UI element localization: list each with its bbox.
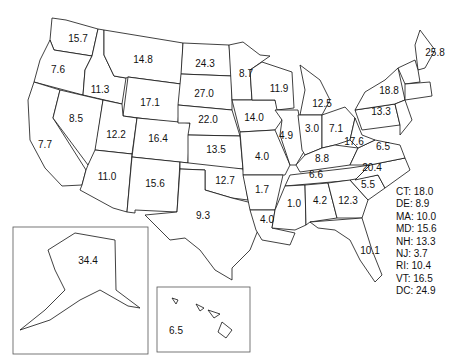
label-wv: 17.6 [344,136,364,147]
label-pa: 13.3 [371,106,391,117]
label-ne: 22.0 [198,114,218,125]
label-ar: 1.7 [255,184,269,195]
label-mn: 8.7 [239,68,253,79]
label-tx: 9.3 [196,210,210,221]
state-ak[interactable] [20,233,140,330]
state-ma-ct-ri[interactable] [405,82,432,100]
legend-ct: CT: 18.0 [396,186,437,198]
label-nm: 15.6 [145,178,165,189]
label-oh: 7.1 [329,123,343,134]
label-sc: 5.5 [361,179,375,190]
legend-md: MD: 15.6 [396,223,437,235]
label-hi: 6.5 [169,325,183,336]
legend-nh: NH: 13.3 [396,236,437,248]
legend-dc: DC: 24.9 [396,285,437,297]
label-wa: 15.7 [68,33,88,44]
label-co: 16.4 [148,133,168,144]
label-or: 7.6 [51,64,65,75]
label-tn: 6.6 [309,169,323,180]
label-mo: 4.0 [255,151,269,162]
label-ca: 7.7 [38,139,52,150]
label-sd: 27.0 [194,88,214,99]
label-ms: 1.0 [287,198,301,209]
label-ok: 12.7 [215,175,235,186]
state-in[interactable] [298,115,322,155]
legend-vt: VT: 16.5 [396,273,437,285]
label-va: 6.5 [376,141,390,152]
label-ny: 18.8 [379,85,399,96]
legend-nj: NJ: 3.7 [396,248,437,260]
us-map: 15.7 7.6 7.7 11.3 8.5 14.8 17.1 12.2 11.… [0,0,460,364]
label-nd: 24.3 [195,58,215,69]
label-fl: 10.1 [360,245,380,256]
small-states-legend: CT: 18.0 DE: 8.9 MA: 10.0 MD: 15.6 NH: 1… [396,186,437,298]
label-in: 3.0 [305,123,319,134]
label-ga: 12.3 [338,195,358,206]
label-ut: 12.2 [106,129,126,140]
label-ks: 13.5 [206,144,226,155]
label-me: 25.8 [425,47,445,58]
label-ky: 8.8 [315,153,329,164]
state-vt-nh[interactable] [398,60,420,84]
label-il: 4.9 [279,130,293,141]
legend-ri: RI: 10.4 [396,260,437,272]
label-wy: 17.1 [140,97,160,108]
hawaii-inset-frame [157,287,250,352]
label-id: 11.3 [91,84,110,95]
label-az: 11.0 [98,171,117,182]
label-ak: 34.4 [78,255,98,266]
legend-ma: MA: 10.0 [396,211,437,223]
label-mi: 12.5 [312,98,332,109]
legend-de: DE: 8.9 [396,198,437,210]
label-wi: 11.9 [270,83,289,94]
label-nc: 20.4 [362,162,382,173]
label-ia: 14.0 [244,112,264,123]
label-mt: 14.8 [133,54,153,65]
label-al: 4.2 [313,195,327,206]
label-nv: 8.5 [69,113,83,124]
label-la: 4.0 [260,214,274,225]
